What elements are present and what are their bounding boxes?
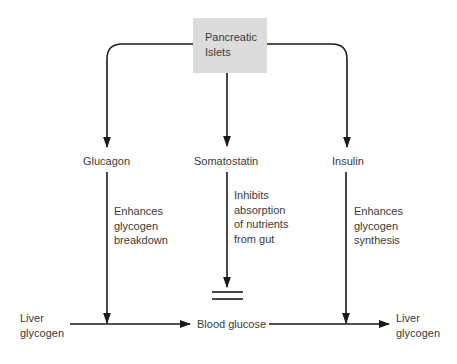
effect-line: absorption: [234, 203, 288, 218]
hormone-insulin: Insulin: [332, 154, 364, 169]
connector-islets-to-glucagon: [107, 44, 193, 147]
pancreatic-islets-label: Pancreatic Islets: [205, 30, 257, 60]
effect-line: Inhibits: [234, 188, 288, 203]
effect-insulin: Enhances glycogen synthesis: [354, 204, 403, 248]
effect-line: Enhances: [114, 204, 168, 219]
effect-line: from gut: [234, 232, 288, 247]
hormone-glucagon: Glucagon: [83, 154, 130, 169]
blood-glucose: Blood glucose: [197, 317, 266, 332]
effect-line: glycogen: [354, 219, 403, 234]
liver-glycogen-target: Liver glycogen: [396, 311, 440, 340]
label-line: Liver: [20, 311, 64, 326]
effect-line: synthesis: [354, 233, 403, 248]
inhibition-symbol: [212, 292, 243, 299]
effect-line: breakdown: [114, 233, 168, 248]
connector-islets-to-insulin: [267, 44, 347, 147]
effect-line: glycogen: [114, 219, 168, 234]
box-line-1: Pancreatic: [205, 30, 257, 45]
label-line: glycogen: [396, 326, 440, 341]
pancreatic-islets-box: Pancreatic Islets: [193, 18, 267, 73]
hormone-somatostatin: Somatostatin: [194, 154, 258, 169]
label-line: Liver: [396, 311, 440, 326]
effect-glucagon: Enhances glycogen breakdown: [114, 204, 168, 248]
effect-line: Enhances: [354, 204, 403, 219]
effect-somatostatin: Inhibits absorption of nutrients from gu…: [234, 188, 288, 246]
liver-glycogen-source: Liver glycogen: [20, 311, 64, 340]
label-line: glycogen: [20, 326, 64, 341]
effect-line: of nutrients: [234, 217, 288, 232]
box-line-2: Islets: [205, 45, 257, 60]
